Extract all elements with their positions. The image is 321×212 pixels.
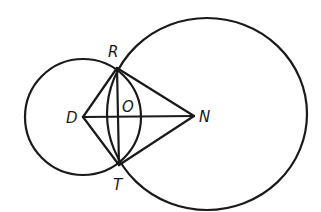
- diagram-svg: R T D N O: [0, 0, 321, 212]
- label-R: R: [108, 43, 118, 61]
- geometry-diagram: R T D N O: [0, 0, 321, 212]
- label-O: O: [122, 98, 134, 116]
- segment-DT: [83, 117, 119, 165]
- label-T: T: [113, 176, 124, 194]
- label-D: D: [66, 109, 78, 127]
- segment-DN: [83, 116, 194, 117]
- segment-DR: [83, 68, 117, 117]
- label-N: N: [199, 108, 210, 126]
- segment-NT: [119, 116, 194, 165]
